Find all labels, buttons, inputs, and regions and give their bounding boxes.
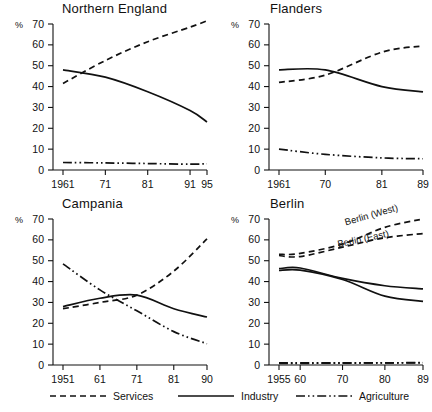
y-tick-label: 60 [248, 233, 260, 245]
y-tick-label: 30 [248, 296, 260, 308]
y-tick-label: 60 [32, 38, 44, 50]
y-tick-label: 0 [38, 164, 44, 176]
x-tick-label: 71 [100, 178, 112, 190]
legend-item-agriculture: Agriculture [296, 390, 409, 402]
y-axis-unit-label: % [231, 20, 239, 30]
legend-item-services: Services [50, 390, 153, 402]
panel-title-northern-england: Northern England [62, 1, 167, 16]
y-tick-label: 60 [248, 38, 260, 50]
y-tick-label: 10 [32, 338, 44, 350]
annotation-berlin-west: Berlin (West) [343, 202, 399, 228]
series-line-agriculture [63, 264, 207, 344]
x-tick-label: 80 [379, 373, 391, 385]
x-tick-label: 61 [94, 373, 106, 385]
y-tick-label: 30 [32, 296, 44, 308]
plot-campania: 010203040506070%195161718190 [0, 190, 216, 386]
panel-berlin: Berlin 010203040506070%195560708089Berli… [216, 190, 432, 386]
x-tick-label: 89 [417, 373, 429, 385]
legend-swatch-services [50, 391, 106, 401]
x-tick-label: 1961 [51, 178, 75, 190]
y-tick-label: 40 [32, 80, 44, 92]
y-tick-label: 20 [32, 122, 44, 134]
legend-item-industry: Industry [178, 390, 278, 402]
x-tick-label: 81 [376, 178, 388, 190]
x-tick-label: 90 [201, 373, 213, 385]
y-tick-label: 10 [248, 143, 260, 155]
y-tick-label: 0 [254, 164, 260, 176]
legend-label-industry: Industry [241, 390, 278, 402]
series-line-industry [63, 70, 207, 122]
y-tick-label: 20 [248, 317, 260, 329]
x-tick-label: 89 [417, 178, 429, 190]
y-tick-label: 0 [254, 359, 260, 371]
x-tick-label: 81 [168, 373, 180, 385]
x-tick-label: 81 [142, 178, 154, 190]
y-tick-label: 10 [248, 338, 260, 350]
y-tick-label: 0 [38, 359, 44, 371]
x-tick-label: 70 [319, 178, 331, 190]
x-tick-label: 71 [131, 373, 143, 385]
x-tick-label: 1951 [51, 373, 75, 385]
y-tick-label: 30 [32, 101, 44, 113]
x-tick-label: 70 [337, 373, 349, 385]
plot-flanders: 010203040506070%1961708189 [216, 0, 432, 190]
series-line-agriculture [63, 162, 207, 164]
y-tick-label: 40 [248, 275, 260, 287]
legend-label-agriculture: Agriculture [359, 390, 409, 402]
legend-label-services: Services [113, 390, 153, 402]
y-tick-label: 50 [248, 59, 260, 71]
y-tick-label: 40 [248, 80, 260, 92]
y-tick-label: 50 [32, 59, 44, 71]
panel-title-campania: Campania [62, 196, 123, 211]
panel-title-flanders: Flanders [270, 1, 322, 16]
y-tick-label: 70 [32, 18, 44, 30]
y-axis-unit-label: % [15, 215, 23, 225]
x-tick-label: 91 [184, 178, 196, 190]
x-tick-label: 1961 [267, 178, 291, 190]
plot-berlin: 010203040506070%195560708089Berlin (West… [216, 190, 432, 386]
y-tick-label: 10 [32, 143, 44, 155]
y-tick-label: 60 [32, 233, 44, 245]
y-tick-label: 30 [248, 101, 260, 113]
y-axis-unit-label: % [15, 20, 23, 30]
y-tick-label: 40 [32, 275, 44, 287]
x-tick-label: 95 [201, 178, 213, 190]
x-tick-label: 60 [294, 373, 306, 385]
x-tick-label: 1955 [267, 373, 291, 385]
y-tick-label: 70 [248, 213, 260, 225]
panel-campania: Campania 010203040506070%195161718190 [0, 190, 216, 386]
multi-panel-line-chart-figure: Northern England 010203040506070%1961718… [0, 0, 432, 412]
y-tick-label: 50 [32, 254, 44, 266]
panel-title-berlin: Berlin [270, 196, 304, 211]
series-line-services [63, 21, 207, 84]
y-tick-label: 20 [248, 122, 260, 134]
plot-northern-england: 010203040506070%196171819195 [0, 0, 216, 190]
series-line-agriculture [279, 149, 423, 159]
panel-flanders: Flanders 010203040506070%1961708189 [216, 0, 432, 190]
legend-swatch-agriculture [296, 391, 352, 401]
chart-legend: Services Industry Agriculture [0, 386, 432, 412]
series-line-industry-east [279, 270, 423, 302]
y-axis-unit-label: % [231, 215, 239, 225]
annotation-berlin-east: Berlin (East) [336, 228, 389, 250]
panel-northern-england: Northern England 010203040506070%1961718… [0, 0, 216, 190]
y-tick-label: 20 [32, 317, 44, 329]
series-line-services [63, 239, 207, 309]
y-tick-label: 50 [248, 254, 260, 266]
legend-swatch-industry [178, 391, 234, 401]
y-tick-label: 70 [248, 18, 260, 30]
y-tick-label: 70 [32, 213, 44, 225]
